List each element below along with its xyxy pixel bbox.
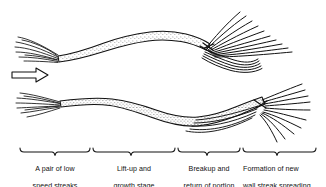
bracket-stage-3 <box>178 148 240 156</box>
flow-arrow-group <box>12 68 48 82</box>
lower-streak-body <box>60 97 265 126</box>
bracket-stage-4 <box>243 148 316 156</box>
upper-streak-body <box>58 31 210 62</box>
flow-direction-arrow <box>12 68 48 82</box>
upper-streak-group <box>15 12 292 72</box>
upper-streak-left-filaments <box>15 37 58 63</box>
lower-streak-group <box>16 84 310 142</box>
upper-streak-splay-fan <box>206 12 292 57</box>
bracket-stage-1 <box>20 148 90 156</box>
streak-burst-figure: A pair of low speed streaks Lift-up and … <box>0 0 326 187</box>
lower-streak-splay-fan <box>260 84 310 142</box>
lower-streak-left-filaments <box>16 93 60 117</box>
stage-brackets <box>20 148 316 156</box>
bracket-stage-2 <box>93 148 175 156</box>
diagram-canvas <box>0 0 326 187</box>
